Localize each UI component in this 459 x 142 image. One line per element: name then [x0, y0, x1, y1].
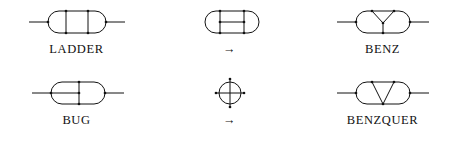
circle-crosshair-icon — [170, 75, 290, 111]
symbol-cell-arrow-bottom: → — [153, 71, 306, 142]
stadium-tee-with-leads-icon — [17, 75, 137, 111]
symbol-label-arrow-bottom: → — [223, 114, 236, 127]
symbol-cell-benz: BENZ — [306, 0, 459, 71]
stadium-two-rungs-with-leads-icon — [17, 4, 137, 40]
symbol-label-arrow-top: → — [223, 43, 236, 56]
stadium-y-vertex-with-leads-icon — [323, 4, 443, 40]
symbol-cell-bug: BUG — [0, 71, 153, 142]
symbol-label-benzquer: BENZQUER — [347, 114, 418, 127]
symbol-label-benz: BENZ — [365, 43, 400, 56]
symbol-grid: LADDER → — [0, 0, 459, 141]
stadium-two-rungs-crossbar-icon — [170, 4, 290, 40]
symbol-label-ladder: LADDER — [49, 43, 103, 56]
figure-canvas: LADDER → — [0, 0, 459, 141]
symbol-cell-arrow-top: → — [153, 0, 306, 71]
stadium-v-vertex-with-leads-icon — [323, 75, 443, 111]
symbol-cell-benzquer: BENZQUER — [306, 71, 459, 142]
symbol-cell-ladder: LADDER — [0, 0, 153, 71]
symbol-label-bug: BUG — [62, 114, 90, 127]
